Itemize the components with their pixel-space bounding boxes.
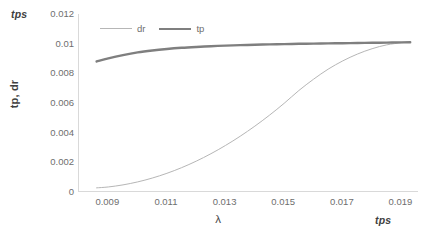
chart-legend: dr tp [100, 24, 204, 34]
y-axis-tick-label: 0 [0, 186, 74, 197]
x-axis-unit-label: tps [375, 214, 391, 226]
series-line-dr [97, 42, 411, 188]
x-axis-title: λ [0, 213, 436, 225]
x-axis-tick-label: 0.019 [389, 196, 413, 207]
x-axis-tick-label: 0.011 [154, 196, 177, 207]
y-axis-tick-label: 0.012 [0, 8, 74, 19]
legend-item-dr: dr [100, 24, 145, 34]
chart-container: tps tp, dr 00.0020.0040.0060.0080.010.01… [0, 0, 436, 237]
y-axis-tick-label: 0.006 [0, 97, 74, 108]
y-axis-tick-label: 0.002 [0, 156, 74, 167]
y-axis-tick-label: 0.008 [0, 67, 74, 78]
series-canvas [79, 14, 419, 192]
legend-label-dr: dr [137, 24, 145, 34]
x-axis-tick-label: 0.017 [330, 196, 354, 207]
y-axis-tick-label: 0.004 [0, 127, 74, 138]
legend-swatch-dr-icon [100, 28, 132, 29]
legend-label-tp: tp [196, 24, 204, 34]
x-axis-tick-label: 0.009 [95, 196, 119, 207]
x-axis-tick-label: 0.013 [213, 196, 237, 207]
x-axis-tick-label: 0.015 [271, 196, 295, 207]
legend-item-tp: tp [159, 24, 204, 34]
plot-area [78, 14, 418, 192]
legend-swatch-tp-icon [159, 28, 191, 30]
y-axis-tick-label: 0.01 [0, 38, 74, 49]
y-axis-tick-labels: 00.0020.0040.0060.0080.010.012 [0, 0, 74, 237]
